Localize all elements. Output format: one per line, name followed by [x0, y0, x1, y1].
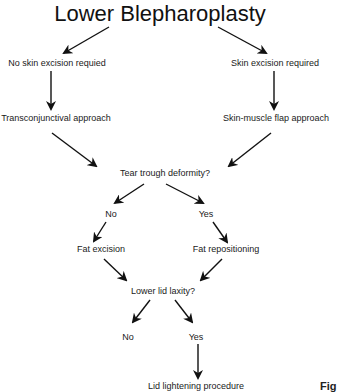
node-no-skin-excision: No skin excision requied: [8, 58, 106, 69]
node-tear-trough-no: No: [105, 209, 117, 220]
node-skin-excision: Skin excision required: [231, 58, 319, 69]
arrow-flap-to-tear-trough: [229, 133, 271, 166]
arrow-transconjunctival-to-tear-trough: [52, 133, 96, 166]
node-tear-trough-yes: Yes: [199, 209, 214, 220]
node-lower-lid-laxity: Lower lid laxity?: [131, 286, 195, 297]
node-tear-trough: Tear trough deformity?: [120, 168, 210, 179]
node-fat-excision: Fat excision: [77, 244, 125, 255]
arrow-no-to-fat-excision: [94, 222, 106, 241]
node-skin-muscle-flap: Skin-muscle flap approach: [223, 113, 329, 124]
arrow-laxity-to-yes: [175, 300, 192, 322]
diagram-title: Lower Blepharoplasty: [54, 2, 266, 26]
node-laxity-no: No: [122, 332, 134, 343]
arrow-laxity-to-no: [133, 300, 150, 322]
arrow-fat-excision-to-laxity: [104, 259, 126, 280]
figure-caption-fragment: Fig: [320, 380, 337, 392]
arrow-yes-to-fat-repositioning: [213, 222, 227, 242]
node-transconjunctival: Transconjunctival approach: [1, 113, 111, 124]
arrow-title-to-skin: [218, 27, 266, 53]
node-fat-repositioning: Fat repositioning: [193, 244, 260, 255]
arrow-tear-trough-to-yes: [166, 184, 203, 203]
arrow-fat-repositioning-to-laxity: [201, 259, 222, 280]
node-laxity-yes: Yes: [189, 332, 204, 343]
arrow-tear-trough-to-no: [115, 184, 144, 203]
node-lid-procedure: Lid lightening procedure: [148, 381, 244, 392]
arrow-title-to-no-skin: [64, 27, 109, 53]
